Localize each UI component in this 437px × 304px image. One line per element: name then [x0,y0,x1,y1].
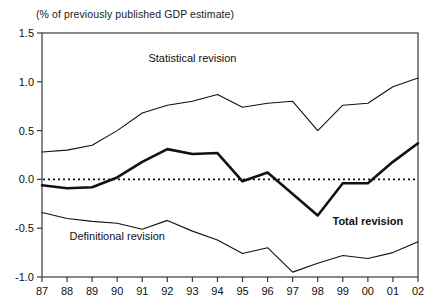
x-axis-tick-label: 93 [186,285,198,297]
x-axis-tick-label: 89 [86,285,98,297]
line-chart-plot: 1.51.00.50.0-0.5-1.087888990919293949596… [0,0,437,304]
x-axis-tick-label: 00 [362,285,374,297]
x-axis-tick-label: 88 [61,285,73,297]
y-axis-tick-label: 0.0 [19,173,34,185]
x-axis-tick-label: 97 [287,285,299,297]
series-line-statistical-revision [42,78,418,152]
x-axis-tick-label: 01 [387,285,399,297]
series-label-statistical-revision: Statistical revision [148,52,236,64]
x-axis-tick-label: 95 [236,285,248,297]
y-axis-tick-label: 0.5 [19,125,34,137]
x-axis-tick-label: 90 [111,285,123,297]
y-axis-tick-label: -1.0 [15,271,34,283]
x-axis-tick-label: 94 [211,285,223,297]
y-axis-tick-label: 1.0 [19,76,34,88]
x-axis-tick-label: 91 [136,285,148,297]
y-axis-tick-label: -0.5 [15,222,34,234]
series-label-total-revision: Total revision [333,215,404,227]
x-axis-tick-label: 99 [337,285,349,297]
series-label-definitional-revision: Definitional revision [70,230,165,242]
x-axis-tick-label: 98 [312,285,324,297]
y-axis-tick-label: 1.5 [19,27,34,39]
x-axis-tick-label: 96 [261,285,273,297]
x-axis-tick-label: 92 [161,285,173,297]
x-axis-tick-label: 02 [412,285,424,297]
chart-container: (% of previously published GDP estimate)… [0,0,437,304]
x-axis-tick-label: 87 [36,285,48,297]
